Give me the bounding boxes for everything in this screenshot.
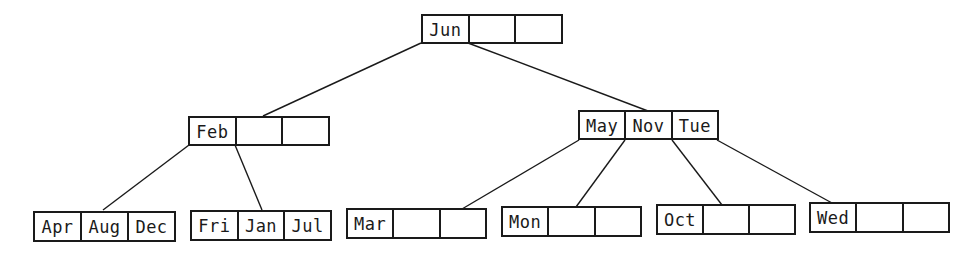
edge-feb-to-apr-aug-dec: [103, 145, 189, 210]
edge-nov-to-mon: [576, 140, 625, 207]
oct-node: Oct: [656, 204, 796, 235]
node-key: [281, 118, 328, 144]
mon-node: Mon: [501, 206, 642, 237]
feb-node: Feb: [188, 116, 330, 146]
node-key: Nov: [624, 112, 670, 138]
node-key: [594, 208, 640, 235]
edge-tue-to-oct: [672, 140, 722, 205]
edge-root-to-feb: [263, 43, 421, 116]
b-tree-diagram: Jun Feb May Nov Tue Apr Aug Dec Fri Jan …: [0, 0, 979, 255]
node-key: [514, 16, 561, 42]
node-key: Jun: [423, 16, 468, 42]
node-key: Mar: [348, 210, 392, 237]
node-key: Wed: [811, 204, 855, 231]
edge-tue-to-wed: [717, 140, 832, 203]
node-key: Jan: [237, 212, 284, 239]
fri-jan-jul-node: Fri Jan Jul: [190, 210, 332, 241]
mar-node: Mar: [346, 208, 487, 239]
node-key: [392, 210, 438, 237]
node-key: Dec: [127, 213, 174, 240]
node-key: Oct: [658, 206, 702, 233]
node-key: Tue: [671, 112, 717, 138]
node-key: Feb: [190, 118, 235, 144]
may-nov-tue-node: May Nov Tue: [578, 110, 719, 140]
node-key: Apr: [35, 213, 80, 240]
edge-may-to-mar: [462, 140, 579, 209]
root-node: Jun: [421, 14, 563, 44]
node-key: [748, 206, 794, 233]
node-key: [855, 204, 901, 231]
apr-aug-dec-node: Apr Aug Dec: [33, 211, 176, 242]
node-key: May: [580, 112, 624, 138]
node-key: [468, 16, 515, 42]
node-key: [439, 210, 485, 237]
node-key: Mon: [503, 208, 547, 235]
node-key: [702, 206, 748, 233]
node-key: Fri: [192, 212, 237, 239]
node-key: [902, 204, 948, 231]
node-key: Jul: [283, 212, 330, 239]
node-key: Aug: [80, 213, 127, 240]
edge-root-to-may-nov-tue: [468, 43, 648, 111]
edge-feb-to-fri-jan-jul: [235, 145, 262, 210]
node-key: [547, 208, 593, 235]
node-key: [235, 118, 282, 144]
wed-node: Wed: [809, 202, 950, 233]
